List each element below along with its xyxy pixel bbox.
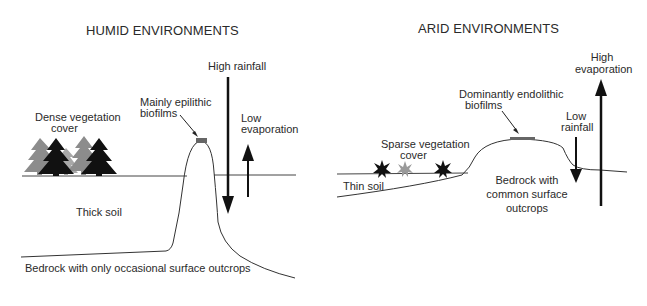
- down-arrow-icon: [570, 137, 582, 183]
- down-arrow-icon: [222, 77, 234, 214]
- humid-vegetation-label-2: cover: [51, 122, 78, 134]
- up-arrow-icon: [595, 79, 607, 206]
- arid-bedrock-label-2: common surface: [482, 188, 572, 200]
- pointer-arrow-icon: [502, 111, 517, 131]
- humid-soil-label: Thick soil: [76, 206, 122, 218]
- pointer-arrowhead-icon: [192, 131, 198, 137]
- weathering-diagram: [0, 0, 647, 306]
- shrub-icon: [373, 160, 391, 178]
- arid-bedrock-label-1: Bedrock with: [487, 174, 567, 186]
- arid-evaporation-label-2: evaporation: [575, 63, 633, 75]
- up-arrow-icon: [242, 144, 254, 197]
- shrub-icon: [397, 161, 413, 177]
- arid-biofilm-label-2: biofilms: [465, 99, 502, 111]
- arid-rainfall-label-2: rainfall: [561, 121, 593, 133]
- humid-bedrock-label: Bedrock with only occasional surface out…: [25, 262, 251, 274]
- shrub-icon: [434, 160, 452, 178]
- dense-vegetation: [24, 136, 117, 176]
- endolithic-biofilm-marker: [510, 137, 535, 140]
- sparse-vegetation: [373, 160, 452, 178]
- arid-vegetation-label-2: cover: [400, 149, 427, 161]
- humid-biofilm-label-2: biofilms: [140, 107, 177, 119]
- arid-soil-label: Thin soil: [343, 180, 384, 192]
- humid-title: HUMID ENVIRONMENTS: [86, 24, 239, 38]
- humid-evaporation-label-2: evaporation: [241, 123, 299, 135]
- arid-evaporation-label-1: High: [588, 51, 616, 63]
- pointer-arrow-icon: [180, 115, 196, 134]
- arid-bedrock-label-3: outcrops: [487, 202, 567, 214]
- arid-title: ARID ENVIRONMENTS: [418, 22, 559, 36]
- epilithic-biofilm-marker: [196, 138, 207, 143]
- pointer-arrowhead-icon: [513, 128, 519, 134]
- humid-rainfall-label: High rainfall: [208, 60, 266, 72]
